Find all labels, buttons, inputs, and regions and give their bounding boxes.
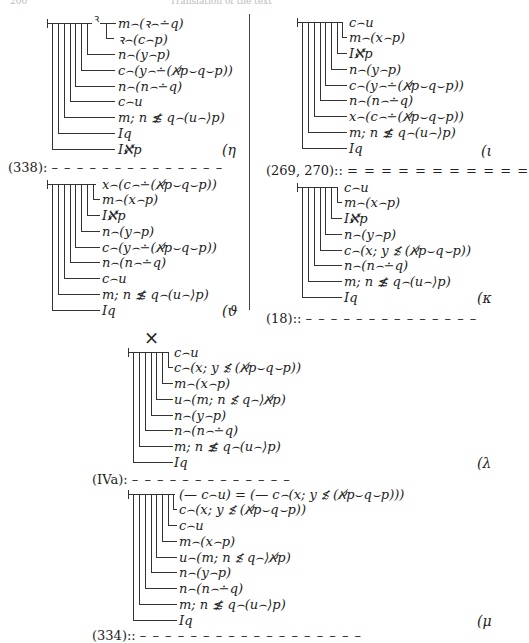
derivation-separator: (18):: – – – – – – – – – – – – – – <box>266 311 477 326</box>
formula-line: n⌢(y⌢p) <box>174 409 226 423</box>
formula-line: ꝛ⌢(c⌢p) <box>118 33 168 47</box>
formula-line: m; n ≴ q⌢(u⌢⟩p) <box>349 126 456 140</box>
formula-line: c⌢u <box>179 519 204 533</box>
formula-line: c⌢(y⌢∸(ℵ̸p⌣q⌣p)) <box>349 79 464 93</box>
column-divider <box>249 14 250 310</box>
formula-line: Iq <box>349 142 362 156</box>
formula-line: u⌢(m; n ≴ q⌢⟩ℵ̸p) <box>174 393 286 407</box>
formula-line: m⌢(x⌢p) <box>174 377 230 391</box>
formula-line: m; n ≴ q⌢(u⌢⟩p) <box>179 598 286 612</box>
formula-tag: (ϑ <box>222 303 237 319</box>
formula-line: m; n ≴ q⌢(u⌢⟩p) <box>102 288 209 302</box>
formula-line: x⌢(c⌢∸(ℵ̸p⌣q⌣p)) <box>349 110 464 124</box>
derivation-separator: (338): – – – – – – – – – – – – – – <box>8 160 223 175</box>
times-symbol: × <box>144 327 159 348</box>
formula-line: m⌢(x⌢p) <box>102 193 158 207</box>
concavity-variable: ꝛ <box>94 10 99 25</box>
formula-line: Iℵ̸p <box>349 47 372 61</box>
formula-tag: (μ <box>477 613 492 629</box>
formula-line: n⌢(n⌢∸q) <box>118 80 182 94</box>
formula-line: m⌢(x⌢p) <box>179 535 235 549</box>
formula-tag: (η <box>222 142 236 158</box>
formula-tag: (ι <box>481 143 492 159</box>
formula-line: n⌢(n⌢∸q) <box>102 256 166 270</box>
derivation-separator: (IVa): – – – – – – – – – – – – – <box>92 472 291 487</box>
formula-line: m⌢(x⌢p) <box>344 196 400 210</box>
derivation-separator: (269, 270):: = = = = = = = = = = = <box>266 163 529 178</box>
formula-line: c⌢(y⌢∸(ℵ̸p⌣q⌣p)) <box>102 241 217 255</box>
formula-block-eta: ꝛ m⌢(ꝛ⌢∸q) ꝛ⌢(c⌢p) n⌢(y⌢p) c⌢(y⌢∸(ℵ̸p⌣q⌣… <box>0 0 249 110</box>
formula-tag: (λ <box>477 455 491 471</box>
formula-line: c⌢(y⌢∸(ℵ̸p⌣q⌣p)) <box>118 64 233 78</box>
formula-line: Iq <box>344 291 357 305</box>
formula-line: n⌢(y⌢p) <box>102 225 154 239</box>
formula-line: c⌢u <box>118 95 143 109</box>
formula-line: m; n ≴ q⌢(u⌢⟩p) <box>344 275 451 289</box>
formula-line: n⌢(n⌢∸q) <box>349 94 413 108</box>
formula-line: n⌢(y⌢p) <box>118 48 170 62</box>
separator-label: (338): <box>8 160 47 175</box>
formula-line: m; n ≴ q⌢(u⌢⟩p) <box>174 440 281 454</box>
formula-line: m; n ≴ q⌢(u⌢⟩p) <box>118 111 225 125</box>
formula-line: n⌢(y⌢p) <box>349 63 401 77</box>
separator-label: (269, 270):: <box>266 163 343 178</box>
formula-line: c⌢u <box>102 272 127 286</box>
formula-line: c⌢u <box>344 181 369 195</box>
formula-line: c⌢(x; y ≴ (ℵ̸p⌣q⌣p)) <box>344 244 471 258</box>
formula-line: m⌢(ꝛ⌢∸q) <box>118 17 184 31</box>
derivation-separator: (334):: – – – – – – – – – – – – – – – – … <box>92 628 362 643</box>
formula-line: Iq <box>102 304 115 318</box>
formula-line: x⌢(c⌢∸(ℵ̸p⌣q⌣p)) <box>102 178 217 192</box>
formula-line: Iq <box>179 614 192 628</box>
formula-line: n⌢(y⌢p) <box>179 566 231 580</box>
formula-line: m⌢(x⌢p) <box>349 31 405 45</box>
separator-label: (IVa): <box>92 472 128 487</box>
formula-line: c⌢(x; y ≴ (ℵ̸p⌣q⌣p)) <box>174 361 301 375</box>
formula-line: n⌢(n⌢∸q) <box>179 582 243 596</box>
separator-label: (334):: <box>92 628 136 643</box>
formula-line: Iq <box>118 127 131 141</box>
separator-label: (18):: <box>266 311 301 326</box>
formula-line: n⌢(n⌢∸q) <box>174 424 238 438</box>
formula-line: Iq <box>174 456 187 470</box>
formula-line: (— c⌢u) = (— c⌢(x; y ≴ (ℵ̸p⌣q⌣p))) <box>179 488 404 502</box>
formula-line: c⌢u <box>174 346 199 360</box>
formula-tag: (κ <box>477 290 492 306</box>
formula-line: n⌢(n⌢∸q) <box>344 259 408 273</box>
formula-line: Iℵ̸p <box>118 143 141 157</box>
formula-line: n⌢(y⌢p) <box>344 228 396 242</box>
formula-line: u⌢(m; n ≴ q⌢⟩ℵ̸p) <box>179 551 291 565</box>
formula-line: Iℵ̸p <box>102 209 125 223</box>
formula-line: c⌢u <box>349 16 374 30</box>
formula-line: c⌢(x; y ≴ (ℵ̸p⌣q⌣p)) <box>179 503 306 517</box>
formula-line: Iℵ̸p <box>344 212 367 226</box>
